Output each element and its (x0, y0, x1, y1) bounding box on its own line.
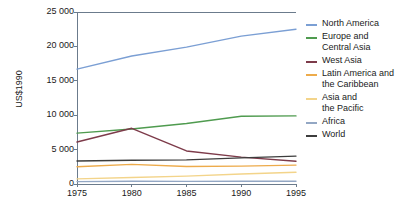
legend-label: West Asia (322, 55, 362, 66)
legend-swatch-icon (306, 122, 317, 124)
legend-item[interactable]: Asia and the Pacific (306, 92, 418, 114)
legend-item[interactable]: Africa (306, 116, 418, 127)
legend-label: Europe and Central Asia (322, 31, 371, 53)
legend-label: Asia and the Pacific (322, 92, 364, 114)
legend-swatch-icon (306, 135, 317, 137)
legend-label: Latin America and the Caribbean (322, 68, 394, 90)
legend-swatch-icon (306, 98, 317, 100)
legend-item[interactable]: Europe and Central Asia (306, 31, 418, 53)
legend-label: Africa (322, 116, 345, 127)
series-line-1 (77, 116, 296, 133)
legend-item[interactable]: Latin America and the Caribbean (306, 68, 418, 90)
legend-swatch-icon (306, 74, 317, 76)
chart-legend: North AmericaEurope and Central AsiaWest… (306, 18, 418, 142)
legend-item[interactable]: West Asia (306, 55, 418, 66)
data-series-group (77, 29, 296, 181)
legend-item[interactable]: North America (306, 18, 418, 29)
series-line-2 (77, 128, 296, 161)
series-line-3 (77, 164, 296, 166)
legend-swatch-icon (306, 61, 317, 63)
legend-label: North America (322, 18, 379, 29)
legend-label: World (322, 129, 345, 140)
legend-swatch-icon (306, 37, 317, 39)
line-chart: US$1990 05 00010 00015 00020 00025 000 1… (0, 0, 418, 212)
series-line-0 (77, 29, 296, 69)
series-line-4 (77, 172, 296, 179)
legend-swatch-icon (306, 24, 317, 26)
legend-item[interactable]: World (306, 129, 418, 140)
